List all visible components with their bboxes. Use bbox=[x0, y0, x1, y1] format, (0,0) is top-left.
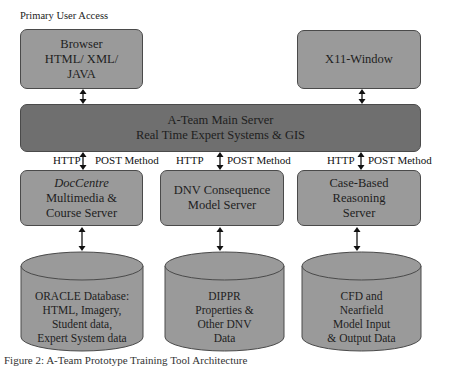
oracle-database-cylinder: ORACLE Database: HTML, Imagery, Student … bbox=[20, 251, 144, 352]
dippr-database-cylinder: DIPPR Properties & Other DNV Data bbox=[164, 251, 285, 352]
bidirectional-arrow-icon bbox=[78, 89, 88, 104]
bidirectional-arrow-icon bbox=[77, 227, 87, 251]
post-method-label: POST Method bbox=[368, 154, 432, 166]
server-line: DNV Consequence bbox=[174, 183, 271, 198]
x11-label: X11-Window bbox=[325, 52, 393, 67]
db-line: Properties & bbox=[164, 303, 285, 317]
bidirectional-arrow-icon bbox=[215, 152, 225, 170]
server-line: Server bbox=[343, 206, 376, 221]
browser-line-2: HTML/ XML/ bbox=[45, 52, 118, 67]
doccentre-server-box: DocCentre Multimedia & Course Server bbox=[20, 170, 143, 226]
db-line: Nearfield bbox=[301, 303, 422, 317]
db-line: Model Input bbox=[301, 317, 422, 331]
main-server-line-2: Real Time Expert Systems & GIS bbox=[136, 128, 305, 143]
dnv-consequence-server-box: DNV Consequence Model Server bbox=[160, 170, 284, 226]
browser-line-3: JAVA bbox=[67, 67, 96, 82]
primary-user-access-label: Primary User Access bbox=[20, 10, 108, 21]
server-line: Reasoning bbox=[333, 191, 386, 206]
server-line: DocCentre bbox=[54, 176, 108, 191]
http-label: HTTP bbox=[176, 154, 204, 166]
main-server-line-1: A-Team Main Server bbox=[167, 113, 273, 128]
cfd-database-cylinder: CFD and Nearfield Model Input & Output D… bbox=[301, 251, 422, 352]
db-line: Expert System data bbox=[20, 331, 144, 345]
figure-caption: Figure 2: A-Team Prototype Training Tool… bbox=[4, 354, 247, 366]
db-line: HTML, Imagery, bbox=[20, 303, 144, 317]
main-server-box: A-Team Main Server Real Time Expert Syst… bbox=[20, 104, 421, 152]
db-line: ORACLE Database: bbox=[20, 289, 144, 303]
bidirectional-arrow-icon bbox=[357, 89, 367, 104]
bidirectional-arrow-icon bbox=[78, 152, 88, 170]
browser-box: Browser HTML/ XML/ JAVA bbox=[20, 29, 143, 89]
db-line: Other DNV bbox=[164, 317, 285, 331]
post-method-label: POST Method bbox=[227, 154, 291, 166]
post-method-label: POST Method bbox=[95, 154, 159, 166]
db-line: CFD and bbox=[301, 289, 422, 303]
http-label: HTTP bbox=[53, 154, 81, 166]
x11-window-box: X11-Window bbox=[297, 30, 421, 89]
server-line: Case-Based bbox=[329, 176, 388, 191]
browser-line-1: Browser bbox=[60, 37, 102, 52]
server-line: Course Server bbox=[46, 206, 117, 221]
http-label: HTTP bbox=[327, 154, 355, 166]
db-line: & Output Data bbox=[301, 331, 422, 345]
bidirectional-arrow-icon bbox=[352, 227, 362, 251]
server-line: Model Server bbox=[188, 198, 256, 213]
case-based-reasoning-server-box: Case-Based Reasoning Server bbox=[297, 170, 421, 226]
server-line: Multimedia & bbox=[46, 191, 117, 206]
db-line: DIPPR bbox=[164, 289, 285, 303]
bidirectional-arrow-icon bbox=[356, 152, 366, 170]
db-line: Student data, bbox=[20, 317, 144, 331]
db-line: Data bbox=[164, 331, 285, 345]
bidirectional-arrow-icon bbox=[215, 227, 225, 251]
